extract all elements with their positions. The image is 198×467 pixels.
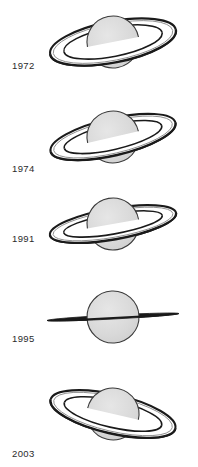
year-label-2003: 2003 — [12, 448, 35, 459]
ring-system-group — [45, 374, 181, 453]
year-label-1974: 1974 — [12, 163, 35, 174]
year-label-1972: 1972 — [12, 60, 35, 71]
year-label-1991: 1991 — [12, 233, 35, 244]
year-label-1995: 1995 — [12, 333, 35, 344]
saturn-ring-sequence-figure: 19721974199119952003 — [0, 0, 198, 467]
